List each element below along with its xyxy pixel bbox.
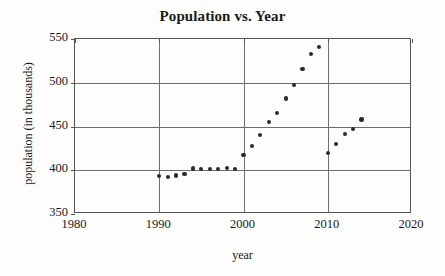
data-point xyxy=(174,173,178,177)
tick-x-2010 xyxy=(328,39,329,43)
tick-x-2000 xyxy=(244,39,245,43)
tick-y-450 xyxy=(71,127,75,128)
data-point xyxy=(300,67,304,71)
data-point xyxy=(343,132,347,136)
gridline-y-400 xyxy=(75,170,410,171)
tick-x-2020 xyxy=(412,39,413,43)
data-point xyxy=(317,45,321,49)
xtick-label-2010: 2010 xyxy=(297,217,357,232)
data-point xyxy=(351,127,355,131)
data-point xyxy=(292,83,296,87)
chart-title: Population vs. Year xyxy=(0,8,445,25)
gridline-x-2000 xyxy=(244,39,245,212)
chart-figure: Population vs. Year 19801990200020102020… xyxy=(0,0,445,276)
xtick-label-2000: 2000 xyxy=(213,217,273,232)
tick-x-1990 xyxy=(159,39,160,43)
data-point xyxy=(284,96,288,100)
tick-y-550 xyxy=(71,39,75,40)
data-point xyxy=(309,52,313,56)
data-point xyxy=(182,172,186,176)
data-point xyxy=(241,153,245,157)
gridline-x-2010 xyxy=(328,39,329,212)
data-point xyxy=(359,117,363,121)
gridline-y-500 xyxy=(75,83,410,84)
tick-x-1980 xyxy=(75,39,76,43)
x-axis-label: year xyxy=(74,248,411,263)
y-axis-label: population (in thousands) xyxy=(21,34,36,214)
tick-y-500 xyxy=(71,83,75,84)
data-point xyxy=(258,133,262,137)
xtick-label-2020: 2020 xyxy=(381,217,441,232)
data-point xyxy=(275,111,279,115)
tick-y-400 xyxy=(71,170,75,171)
xtick-label-1990: 1990 xyxy=(128,217,188,232)
gridline-x-1990 xyxy=(159,39,160,212)
data-point xyxy=(166,175,170,179)
data-point xyxy=(191,166,195,170)
plot-area xyxy=(74,38,411,213)
tick-y-350 xyxy=(71,214,75,215)
data-point xyxy=(225,166,229,170)
gridline-y-450 xyxy=(75,127,410,128)
data-point xyxy=(250,144,254,148)
data-point xyxy=(157,174,161,178)
data-point xyxy=(334,142,338,146)
data-point xyxy=(326,151,330,155)
data-point xyxy=(267,120,271,124)
